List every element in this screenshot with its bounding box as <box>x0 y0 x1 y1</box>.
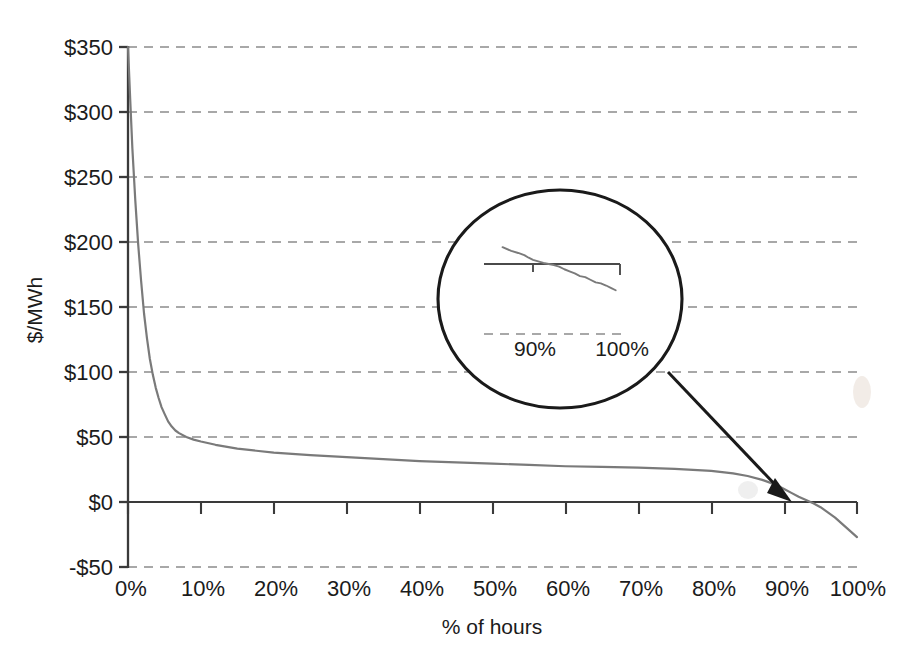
x-tick-label-20: 20% <box>254 576 298 601</box>
magnifier-ellipse-outline <box>438 190 682 408</box>
magnifier-inset: 90% 100% <box>438 190 682 408</box>
price-duration-curve-chart: $350 $300 $250 $200 $150 $100 $50 $0 -$5… <box>0 0 907 650</box>
y-tick-label-50: $50 <box>76 425 113 450</box>
inset-label-90: 90% <box>514 337 556 360</box>
y-tick-label-neg50: -$50 <box>69 555 113 580</box>
scan-smudge-curve <box>738 481 758 499</box>
y-axis-title: $/MWh <box>23 277 46 344</box>
y-tick-label-200: $200 <box>64 230 113 255</box>
x-tick-label-50: 50% <box>473 576 517 601</box>
x-tick-label-40: 40% <box>400 576 444 601</box>
scan-smudge-right <box>853 376 871 408</box>
y-tick-label-150: $150 <box>64 295 113 320</box>
inset-label-100: 100% <box>595 337 649 360</box>
x-tick-label-10: 10% <box>181 576 225 601</box>
x-tick-label-0: 0% <box>115 576 147 601</box>
y-tick-label-0: $0 <box>89 490 113 515</box>
y-tick-label-350: $350 <box>64 35 113 60</box>
y-tick-label-300: $300 <box>64 100 113 125</box>
x-tick-label-80: 80% <box>692 576 736 601</box>
chart-svg: $350 $300 $250 $200 $150 $100 $50 $0 -$5… <box>0 0 907 650</box>
x-tick-label-60: 60% <box>546 576 590 601</box>
x-tick-label-90: 90% <box>765 576 809 601</box>
x-tick-label-30: 30% <box>327 576 371 601</box>
y-tick-label-100: $100 <box>64 360 113 385</box>
x-axis-title: % of hours <box>442 615 542 638</box>
y-tick-label-250: $250 <box>64 165 113 190</box>
x-tick-label-70: 70% <box>619 576 663 601</box>
x-tick-label-100: 100% <box>830 576 886 601</box>
